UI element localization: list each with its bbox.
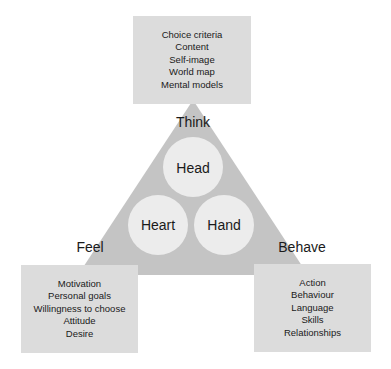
feel-label: Feel — [76, 239, 103, 255]
behave-item: Action — [299, 277, 325, 290]
feel-item: Personal goals — [48, 290, 111, 303]
heart-label: Heart — [141, 217, 175, 233]
feel-item: Motivation — [58, 278, 101, 291]
think-item: World map — [169, 66, 215, 79]
feel-item: Attitude — [63, 315, 95, 328]
head-label: Head — [176, 160, 209, 176]
feel-item: Willingness to choose — [34, 303, 126, 316]
think-item: Choice criteria — [162, 29, 223, 42]
feel-item: Desire — [66, 328, 93, 341]
behave-item: Behaviour — [291, 289, 334, 302]
think-item: Self-image — [169, 54, 214, 67]
behave-label: Behave — [278, 239, 325, 255]
think-item: Content — [175, 41, 208, 54]
think-box: Choice criteria Content Self-image World… — [133, 16, 251, 104]
think-item: Mental models — [161, 79, 223, 92]
think-label: Think — [176, 114, 210, 130]
hand-label: Hand — [207, 217, 240, 233]
behave-box: Action Behaviour Language Skills Relatio… — [254, 264, 371, 352]
behave-item: Skills — [301, 314, 323, 327]
feel-box: Motivation Personal goals Willingness to… — [21, 265, 138, 353]
behave-item: Relationships — [284, 327, 341, 340]
behave-item: Language — [291, 302, 333, 315]
